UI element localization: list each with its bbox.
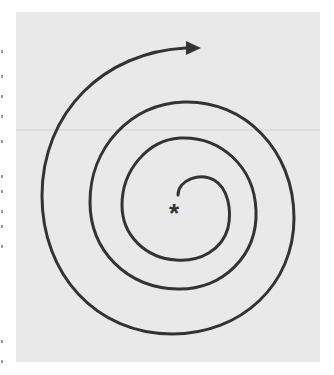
spiral-diagram (0, 0, 334, 375)
center-asterisk-icon: * (169, 200, 179, 226)
arrowhead-right-icon (186, 41, 201, 55)
spiral-path (42, 48, 294, 334)
